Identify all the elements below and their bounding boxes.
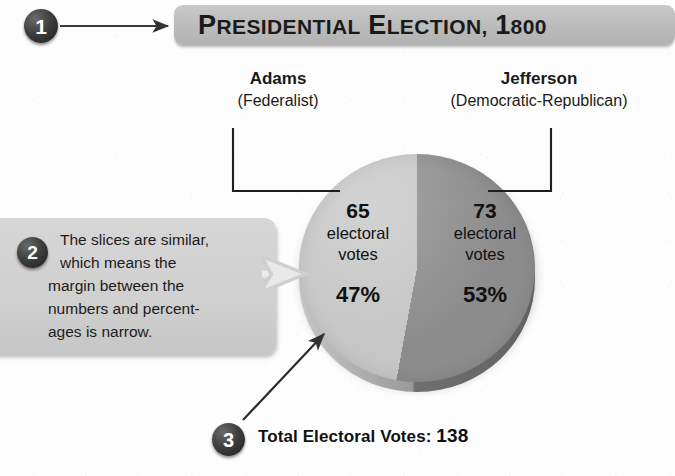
candidate-label-jefferson: Jefferson (Democratic-Republican): [404, 68, 674, 112]
candidate-name-adams: Adams: [178, 68, 378, 90]
callout-line-5: ages is narrow.: [48, 320, 274, 343]
slice-percent-jefferson: 53%: [434, 282, 536, 308]
figure-root: PRESIDENTIAL ELECTION, 1800 1 Adams (Fed…: [0, 0, 675, 476]
total-value: 138: [436, 425, 468, 446]
candidate-party-adams: (Federalist): [178, 90, 378, 112]
slice-votes-adams: 65: [307, 198, 409, 223]
callout-line-4: numbers and percent-: [48, 297, 274, 320]
total-electoral-votes-caption: Total Electoral Votes: 138: [258, 425, 468, 447]
slice-unit-adams-2: votes: [307, 244, 409, 265]
callout-line-3: margin between the: [48, 274, 274, 297]
title-banner: PRESIDENTIAL ELECTION, 1800: [174, 5, 675, 45]
slice-unit-jefferson-1: electoral: [434, 223, 536, 244]
callout-badge-2[interactable]: 2: [17, 237, 48, 268]
slice-percent-adams: 47%: [307, 282, 409, 308]
callout-badge-3[interactable]: 3: [212, 423, 245, 456]
slice-unit-jefferson-2: votes: [434, 244, 536, 265]
callout-text-2: The slices are similar, which means the …: [48, 228, 274, 343]
candidate-name-jefferson: Jefferson: [404, 68, 674, 90]
total-label: Total Electoral Votes:: [258, 427, 432, 446]
candidate-party-jefferson: (Democratic-Republican): [404, 90, 674, 112]
slice-label-adams: 65 electoral votes 47%: [307, 198, 409, 308]
slice-votes-jefferson: 73: [434, 198, 536, 223]
callout-line-1: The slices are similar,: [48, 228, 274, 251]
callout-badge-1[interactable]: 1: [24, 9, 58, 43]
callout-line-2: which means the: [48, 251, 274, 274]
page-title: PRESIDENTIAL ELECTION, 1800: [174, 10, 547, 41]
candidate-label-adams: Adams (Federalist): [178, 68, 378, 112]
slice-unit-adams-1: electoral: [307, 223, 409, 244]
slice-label-jefferson: 73 electoral votes 53%: [434, 198, 536, 308]
